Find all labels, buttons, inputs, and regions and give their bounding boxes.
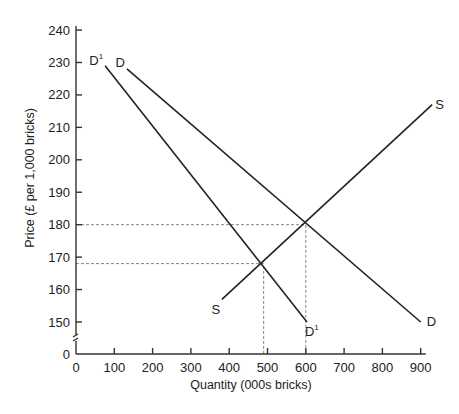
x-tick-label: 200 <box>142 360 164 375</box>
x-tick-label: 900 <box>410 360 432 375</box>
equilibrium-guide-new <box>76 264 264 354</box>
axes: 1501601701801902002102202302400010020030… <box>48 23 431 375</box>
curve-d1 <box>105 66 307 322</box>
x-tick-label: 600 <box>295 360 317 375</box>
x-tick-label: 100 <box>103 360 125 375</box>
curve-s <box>222 105 432 300</box>
label-d-end: D <box>427 314 436 329</box>
label-d-start: D <box>116 55 125 70</box>
y-tick-label: 190 <box>48 185 70 200</box>
x-axis-title: Quantity (000s bricks) <box>190 378 312 392</box>
label-d1-end: D1 <box>305 323 319 339</box>
x-tick-label: 700 <box>333 360 355 375</box>
x-tick-label: 400 <box>218 360 240 375</box>
curve-d <box>127 69 421 322</box>
y-tick-label: 210 <box>48 120 70 135</box>
y-tick-label: 230 <box>48 55 70 70</box>
y-tick-label: 180 <box>48 217 70 232</box>
equilibrium-guide-original <box>76 225 306 354</box>
x-tick-label: 0 <box>72 360 79 375</box>
curves <box>105 66 432 322</box>
equilibrium-guides <box>76 225 306 354</box>
y-tick-label: 240 <box>48 23 70 38</box>
axis-break-icon <box>73 334 78 341</box>
x-tick-label: 300 <box>180 360 202 375</box>
y-tick-label: 220 <box>48 87 70 102</box>
y-tick-label: 200 <box>48 152 70 167</box>
supply-demand-chart: 1501601701801902002102202302400010020030… <box>0 0 459 414</box>
y-tick-label: 160 <box>48 282 70 297</box>
label-s-end: S <box>435 97 444 112</box>
label-s-start: S <box>212 302 221 317</box>
x-tick-label: 800 <box>372 360 394 375</box>
y-tick-label: 150 <box>48 315 70 330</box>
y-origin-label: 0 <box>63 347 70 362</box>
x-tick-label: 500 <box>257 360 279 375</box>
y-axis-title: Price (£ per 1,000 bricks) <box>23 108 37 248</box>
label-d1-start: D1 <box>89 52 103 68</box>
y-tick-label: 170 <box>48 250 70 265</box>
